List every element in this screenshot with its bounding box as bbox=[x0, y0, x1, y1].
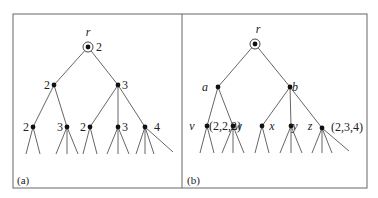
tree-figure: r22323234(a) rabv(2,2,2)wxyz(2,3,4)(b) bbox=[0, 0, 378, 198]
subtree-stub bbox=[33, 127, 40, 154]
tree-edge bbox=[262, 87, 290, 126]
node-label: x bbox=[268, 119, 275, 133]
tree-node-b-a bbox=[216, 85, 221, 90]
node-value: (2,3,4) bbox=[331, 120, 363, 134]
tree-node-a-r bbox=[86, 45, 91, 50]
node-value: 2 bbox=[80, 120, 86, 134]
node-label: a bbox=[202, 80, 208, 94]
panel-b: rabv(2,2,2)wxyz(2,3,4)(b) bbox=[187, 22, 363, 187]
panel-caption: (a) bbox=[17, 174, 30, 187]
node-label: r bbox=[86, 25, 91, 39]
panel-a: r22323234(a) bbox=[17, 25, 173, 187]
subtree-stub bbox=[280, 126, 291, 153]
tree-node-a-LR bbox=[65, 125, 70, 130]
tree-edge bbox=[88, 47, 118, 85]
panel-caption: (b) bbox=[187, 174, 200, 187]
subtree-stub bbox=[262, 126, 269, 153]
tree-diagram: r22323234(a) rabv(2,2,2)wxyz(2,3,4)(b) bbox=[0, 0, 378, 198]
subtree-stub bbox=[136, 127, 145, 154]
tree-node-a-RL bbox=[88, 125, 93, 130]
node-label: z bbox=[307, 119, 313, 133]
node-value: 3 bbox=[122, 78, 128, 92]
node-label: r bbox=[256, 22, 261, 36]
tree-node-b-r bbox=[253, 42, 258, 47]
tree-edge bbox=[290, 87, 291, 126]
figure-frame bbox=[13, 14, 367, 188]
subtree-stub bbox=[67, 127, 78, 154]
subtree-stub bbox=[200, 126, 207, 153]
node-value: 3 bbox=[57, 120, 63, 134]
tree-node-b-x bbox=[260, 124, 265, 129]
subtree-stub bbox=[312, 128, 322, 153]
tree-node-a-R bbox=[116, 83, 121, 88]
node-label: b bbox=[292, 80, 298, 94]
tree-node-b-z bbox=[320, 126, 325, 131]
node-label: v bbox=[189, 119, 195, 133]
tree-edge bbox=[218, 44, 255, 87]
tree-node-a-LL bbox=[31, 125, 36, 130]
subtree-stub bbox=[90, 127, 97, 154]
node-value: 4 bbox=[154, 120, 160, 134]
subtree-stub bbox=[255, 126, 262, 153]
node-value: 3 bbox=[122, 120, 128, 134]
subtree-stub bbox=[107, 127, 118, 154]
node-value: 2 bbox=[44, 78, 50, 92]
node-label: w bbox=[234, 119, 242, 133]
tree-node-a-RM bbox=[116, 125, 121, 130]
node-value: 2 bbox=[23, 120, 29, 134]
tree-edge bbox=[90, 85, 118, 127]
node-label: y bbox=[291, 119, 298, 133]
node-value: 2 bbox=[96, 40, 102, 54]
tree-node-a-RR bbox=[143, 125, 148, 130]
tree-edge bbox=[255, 44, 290, 87]
tree-node-a-L bbox=[52, 83, 57, 88]
tree-edge bbox=[54, 47, 88, 85]
